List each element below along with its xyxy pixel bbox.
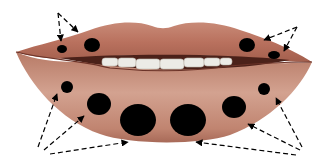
arrow-icon — [50, 142, 128, 154]
arrow-icon — [248, 124, 300, 150]
dot-lower-center-left — [120, 104, 156, 136]
lips-illustration — [0, 0, 328, 168]
arrow-icon — [58, 13, 61, 41]
arrow-icon — [58, 13, 78, 32]
dot-lower-left-2 — [87, 93, 111, 115]
arrow-icon — [284, 27, 297, 51]
arrow-icon — [44, 116, 84, 150]
dot-upper-left-large — [84, 38, 100, 52]
dot-lower-center-right — [170, 104, 206, 136]
arrow-icon — [264, 27, 297, 40]
dot-lower-right-2 — [222, 96, 246, 118]
dot-lower-left-1 — [61, 81, 73, 93]
dot-upper-left-small — [57, 45, 67, 53]
dot-upper-right-small — [268, 51, 280, 59]
dot-lower-right-1 — [258, 83, 270, 95]
arrow-icon — [276, 98, 302, 147]
lips-diagram — [0, 0, 328, 168]
dot-upper-right-large — [239, 38, 255, 52]
arrow-icon — [196, 142, 296, 155]
